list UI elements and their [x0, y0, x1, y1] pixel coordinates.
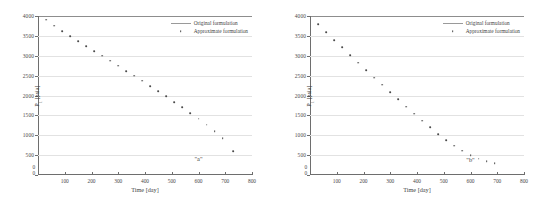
y-axis-title-symbol: P	[33, 103, 40, 106]
x-tick-label: 800	[520, 178, 528, 184]
x-tick-label: 200	[87, 178, 95, 184]
data-point	[198, 118, 200, 120]
data-point	[333, 39, 335, 41]
data-point	[125, 70, 127, 72]
x-tick-mark	[38, 172, 39, 176]
y-axis-title-unit: [psia]	[33, 85, 40, 101]
legend-a: Original formulationApproximate formulat…	[171, 19, 248, 35]
data-point	[93, 50, 95, 52]
origin-label-x: 0	[305, 171, 308, 176]
x-tick-mark	[92, 172, 93, 176]
x-tick-label: 600	[194, 178, 202, 184]
x-tick-label: 300	[114, 178, 122, 184]
x-axis-title: Time [day]	[310, 186, 524, 193]
x-tick-label: 200	[359, 178, 367, 184]
x-tick-mark	[497, 172, 498, 176]
x-tick-mark	[65, 172, 66, 176]
data-point	[478, 158, 480, 160]
gridline	[38, 155, 252, 156]
x-tick-mark	[199, 172, 200, 176]
data-point	[190, 112, 192, 114]
x-tick-label: 100	[333, 178, 341, 184]
panel-b: 5001000150020002500300035004000 10020030…	[272, 0, 544, 220]
data-point	[117, 65, 119, 67]
y-tick-label: 2000	[23, 93, 34, 99]
y-tick-label: 2500	[295, 73, 306, 79]
panel-annotation-b: "b"	[466, 156, 474, 163]
x-tick-label: 300	[386, 178, 394, 184]
y-tick-label: 1500	[23, 112, 34, 118]
y-tick-mark	[35, 56, 39, 57]
data-point	[486, 160, 488, 162]
data-point	[446, 139, 448, 141]
x-axis-title: Time [day]	[38, 186, 252, 193]
data-point	[349, 54, 351, 56]
x-tick-mark	[364, 172, 365, 176]
gridline	[310, 96, 524, 97]
data-point	[373, 77, 375, 79]
x-tick-mark	[172, 172, 173, 176]
x-tick-label: 800	[248, 178, 256, 184]
data-point	[85, 45, 87, 47]
x-tick-label: 400	[141, 178, 149, 184]
figure-two-panel: 5001000150020002500300035004000 10020030…	[0, 0, 544, 220]
data-point	[166, 95, 168, 97]
data-point	[69, 35, 71, 37]
x-tick-mark	[145, 172, 146, 176]
x-tick-label: 500	[168, 178, 176, 184]
y-axis-title: P1 [psia]	[33, 66, 42, 126]
gridline	[310, 56, 524, 57]
y-tick-mark	[35, 36, 39, 37]
data-point	[397, 99, 399, 101]
plot-area-a: 5001000150020002500300035004000 10020030…	[38, 16, 252, 175]
data-point	[182, 107, 184, 109]
x-tick-label: 100	[61, 178, 69, 184]
origin-label-x: 0	[33, 171, 36, 176]
y-tick-mark	[307, 16, 311, 17]
x-tick-label: 600	[466, 178, 474, 184]
data-point	[222, 137, 224, 139]
legend-b: Original formulationApproximate formulat…	[443, 19, 520, 35]
y-axis-title-symbol: P	[305, 103, 312, 106]
y-tick-label: 500	[298, 152, 306, 158]
data-point	[430, 126, 432, 128]
data-point	[462, 150, 464, 152]
gridline	[38, 135, 252, 136]
legend-entry: Approximate formulation	[443, 27, 520, 35]
legend-dot-swatch	[443, 28, 463, 35]
data-point	[61, 30, 63, 32]
gridline	[310, 76, 524, 77]
plot-frame-top	[38, 16, 252, 17]
data-point	[341, 47, 343, 49]
data-point	[405, 106, 407, 108]
data-point	[141, 80, 143, 82]
y-tick-label: 4000	[23, 13, 34, 19]
data-point	[232, 150, 234, 152]
x-tick-mark	[118, 172, 119, 176]
data-point	[381, 84, 383, 86]
y-tick-label: 4000	[295, 13, 306, 19]
y-tick-label: 1000	[295, 132, 306, 138]
data-point	[174, 101, 176, 103]
legend-label: Approximate formulation	[194, 27, 248, 35]
data-point	[133, 75, 135, 77]
y-tick-label: 2000	[295, 93, 306, 99]
gridline	[310, 135, 524, 136]
y-tick-mark	[35, 155, 39, 156]
x-tick-label: 500	[440, 178, 448, 184]
legend-line-swatch	[443, 20, 463, 27]
y-tick-mark	[35, 16, 39, 17]
legend-label: Original formulation	[466, 19, 510, 27]
y-tick-mark	[307, 36, 311, 37]
gridline	[38, 96, 252, 97]
data-point	[109, 60, 111, 62]
panel-annotation-a: "a"	[194, 154, 202, 161]
legend-label: Original formulation	[194, 19, 238, 27]
data-point	[494, 162, 496, 164]
y-tick-label: 500	[26, 152, 34, 158]
gridline	[38, 115, 252, 116]
y-tick-mark	[307, 155, 311, 156]
data-point	[413, 113, 415, 115]
legend-dot-swatch	[171, 28, 191, 35]
y-tick-label: 2500	[23, 73, 34, 79]
